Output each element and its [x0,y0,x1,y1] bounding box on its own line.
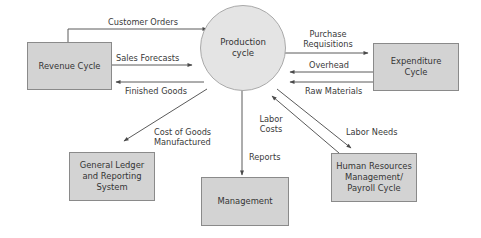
management-label: Management [217,196,272,207]
general-ledger-line3: System [80,182,145,193]
production-cycle-circle: Production cycle [200,5,286,91]
overhead-label: Overhead [309,60,349,70]
cost-of-goods-line2: Manufactured [154,137,211,147]
production-line2: cycle [220,48,266,59]
cost-of-goods-label: Cost of Goods Manufactured [154,127,211,147]
labor-needs-label: Labor Needs [346,127,397,137]
hr-line1: Human Resources [336,161,412,172]
labor-needs-arrow [277,89,351,148]
production-line1: Production [220,37,266,48]
labor-costs-label: Labor Costs [255,114,287,134]
customer-orders-arrow [68,29,207,42]
customer-orders-label: Customer Orders [108,17,178,27]
purchase-requisitions-label: Purchase Requisitions [293,29,363,49]
production-cycle-context-diagram: Revenue Cycle Expenditure Cycle General … [0,0,481,238]
expenditure-label-line1: Expenditure [391,56,442,67]
hr-payroll-box: Human Resources Management/ Payroll Cycl… [331,153,417,202]
expenditure-cycle-box: Expenditure Cycle [373,43,459,91]
general-ledger-line2: and Reporting [80,171,145,182]
raw-materials-label: Raw Materials [305,86,362,96]
cost-of-goods-line1: Cost of Goods [154,127,211,137]
purchase-requisitions-line2: Requisitions [293,39,363,49]
management-box: Management [201,177,289,226]
hr-line3: Payroll Cycle [336,183,412,194]
labor-costs-line1: Labor [255,114,287,124]
reports-label: Reports [249,152,280,162]
general-ledger-box: General Ledger and Reporting System [69,152,155,201]
revenue-cycle-box: Revenue Cycle [27,42,112,90]
expenditure-label-line2: Cycle [391,67,442,78]
labor-costs-line2: Costs [255,124,287,134]
revenue-cycle-label: Revenue Cycle [38,61,100,72]
general-ledger-line1: General Ledger [80,160,145,171]
sales-forecasts-label: Sales Forecasts [116,53,179,63]
purchase-requisitions-line1: Purchase [293,29,363,39]
hr-line2: Management/ [336,172,412,183]
finished-goods-label: Finished Goods [125,86,187,96]
